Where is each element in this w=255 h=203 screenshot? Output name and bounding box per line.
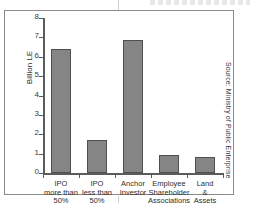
- column-divider-top: [118, 0, 119, 10]
- chart-figure: Billion LE 012345678 IPO more than 50%IP…: [0, 0, 255, 203]
- y-tick-label: 1: [35, 148, 39, 157]
- column-divider-bottom: [118, 196, 119, 203]
- y-tick-label: 8: [35, 12, 39, 21]
- y-tick-label: 6: [35, 51, 39, 60]
- y-tick-label: 7: [35, 31, 39, 40]
- x-tick-mark: [187, 174, 188, 178]
- y-tick-label: 4: [35, 90, 39, 99]
- bar: [87, 140, 107, 173]
- x-tick-mark: [79, 174, 80, 178]
- bar: [159, 155, 179, 173]
- y-tick-label: 0: [35, 167, 39, 176]
- x-axis-line: [43, 173, 224, 175]
- chart-frame: Billion LE 012345678 IPO more than 50%IP…: [4, 10, 234, 195]
- page-bleed-text: [150, 0, 250, 5]
- y-tick-label: 2: [35, 128, 39, 137]
- x-tick-mark: [115, 174, 116, 178]
- x-tick-mark: [43, 174, 44, 178]
- y-tick-label: 3: [35, 109, 39, 118]
- source-note: Source: Ministry of Public Enterprise: [225, 62, 232, 192]
- x-tick-label: Land & Assets: [184, 180, 226, 203]
- bar: [195, 157, 215, 173]
- y-tick-label: 5: [35, 70, 39, 79]
- bar: [51, 49, 71, 173]
- x-tick-mark: [151, 174, 152, 178]
- plot-area: [43, 18, 223, 173]
- x-tick-mark: [223, 174, 224, 178]
- bar: [123, 40, 143, 173]
